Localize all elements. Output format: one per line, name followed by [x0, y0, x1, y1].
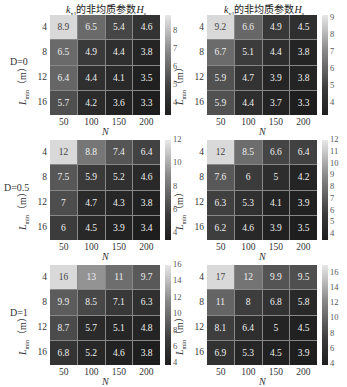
colorbar-tick: 10 — [173, 157, 182, 167]
colorbar-tick: 7 — [330, 193, 334, 203]
heatmap-cell: 5 — [263, 165, 290, 189]
y-tick: 12 — [31, 197, 47, 207]
heatmap-cell: 5.9 — [207, 91, 234, 115]
heatmap-cell: 5 — [263, 316, 290, 340]
x-axis-label: N — [102, 376, 109, 387]
x-tick: 50 — [52, 242, 76, 252]
colorbar-tick: 6 — [330, 63, 334, 73]
colorbar-tick: 7 — [173, 43, 177, 53]
y-tick: 4 — [188, 147, 204, 157]
x-tick: 150 — [264, 367, 288, 377]
colorbar-tick: 16 — [330, 267, 339, 277]
y-tick: 16 — [188, 222, 204, 232]
x-tick: 200 — [291, 367, 315, 377]
title-h: H — [294, 4, 301, 15]
heatmap-cell: 9.5 — [290, 265, 317, 289]
heatmap-cell: 6.9 — [207, 341, 234, 365]
heatmap-cell: 3.8 — [133, 191, 160, 215]
heatmap-cell: 4.4 — [263, 40, 290, 64]
y-tick: 16 — [31, 97, 47, 107]
heatmap-cell: 5.7 — [50, 91, 77, 115]
heatmap-cell: 4.7 — [235, 66, 262, 90]
colorbar-tick: 11 — [330, 146, 338, 156]
heatmap-cell: 9.7 — [133, 265, 160, 289]
heatmap-cell: 5.4 — [106, 15, 133, 39]
x-tick: 100 — [79, 242, 103, 252]
heatmap-cell: 3.8 — [290, 66, 317, 90]
heatmap-cell: 6.5 — [50, 40, 77, 64]
colorbar-tick: 12 — [173, 134, 182, 144]
heatmap-cell: 6.4 — [290, 140, 317, 164]
y-axis-label: Lmin（m） — [171, 187, 187, 230]
heatmap-cell: 5.8 — [290, 290, 317, 314]
y-tick: 8 — [31, 172, 47, 182]
colorbar-tick: 14 — [173, 275, 182, 285]
x-tick: 200 — [291, 117, 315, 127]
heatmap-cell: 3.4 — [133, 216, 160, 240]
colorbar-tick: 4 — [330, 228, 334, 238]
title-h: H — [136, 4, 143, 15]
x-tick: 50 — [209, 367, 233, 377]
heatmap-cell: 9.9 — [50, 290, 77, 314]
heatmap-cell: 7.4 — [106, 140, 133, 164]
heatmap-cell: 6.4 — [133, 140, 160, 164]
heatmap-cell: 3.9 — [290, 341, 317, 365]
colorbar-tick: 5 — [330, 216, 334, 226]
heatmap-cell: 5.2 — [78, 341, 105, 365]
colorbar-tick: 4 — [330, 358, 334, 368]
heatmap-cell: 4.4 — [106, 40, 133, 64]
heatmap-grid: 17129.99.51186.85.88.16.454.56.95.34.53.… — [207, 265, 317, 365]
x-tick: 50 — [52, 367, 76, 377]
x-tick: 50 — [209, 242, 233, 252]
x-tick: 150 — [107, 117, 131, 127]
x-tick: 200 — [134, 117, 158, 127]
colorbar-tick: 16 — [173, 259, 182, 269]
heatmap-cell: 8 — [235, 290, 262, 314]
y-tick: 4 — [188, 22, 204, 32]
heatmap-cell: 4.4 — [235, 91, 262, 115]
colorbar-tick: 8 — [330, 29, 334, 39]
y-tick: 12 — [188, 197, 204, 207]
y-tick: 8 — [188, 47, 204, 57]
heatmap-grid: 1613119.79.98.57.16.38.75.75.14.86.85.24… — [50, 265, 160, 365]
heatmap-cell: 12 — [235, 265, 262, 289]
heatmap-cell: 5.2 — [106, 165, 133, 189]
heatmap-cell: 4.6 — [133, 15, 160, 39]
heatmap-cell: 13 — [78, 265, 105, 289]
heatmap-cell: 4.4 — [78, 66, 105, 90]
heatmap-cell: 3.9 — [263, 66, 290, 90]
heatmap-cell: 9.9 — [263, 265, 290, 289]
colorbar-tick: 10 — [330, 312, 339, 322]
heatmap-cell: 3.7 — [263, 91, 290, 115]
colorbar-tick: 12 — [330, 134, 339, 144]
heatmap-cell: 5.1 — [235, 40, 262, 64]
x-axis-label: N — [259, 251, 266, 262]
heatmap-cell: 8.5 — [235, 140, 262, 164]
heatmap-cell: 6.3 — [207, 191, 234, 215]
heatmap-grid: 128.56.66.47.6654.26.35.34.13.96.24.63.9… — [207, 140, 317, 240]
y-axis-label: Lmin（m） — [14, 187, 30, 230]
heatmap-cell: 16 — [50, 265, 77, 289]
x-tick: 50 — [52, 117, 76, 127]
colorbar-tick: 8 — [330, 328, 334, 338]
y-tick: 12 — [188, 322, 204, 332]
y-tick: 12 — [31, 72, 47, 82]
colorbar-tick: 8 — [330, 181, 334, 191]
heatmap-cell: 7.5 — [50, 165, 77, 189]
heatmap-cell: 3.8 — [290, 40, 317, 64]
y-tick: 16 — [31, 347, 47, 357]
y-tick: 16 — [31, 222, 47, 232]
heatmap-cell: 11 — [106, 265, 133, 289]
heatmap-cell: 6.6 — [263, 140, 290, 164]
heatmap-cell: 4.8 — [133, 316, 160, 340]
heatmap-cell: 7 — [50, 191, 77, 215]
heatmap-cell: 5.7 — [78, 316, 105, 340]
heatmap-cell: 12 — [50, 140, 77, 164]
x-tick: 200 — [291, 242, 315, 252]
heatmap-cell: 5.9 — [207, 66, 234, 90]
colorbar-tick: 7 — [330, 46, 334, 56]
colorbar-tick: 8 — [173, 25, 177, 35]
colorbar-tick: 6 — [330, 343, 334, 353]
heatmap-cell: 3.9 — [106, 216, 133, 240]
y-tick: 8 — [31, 47, 47, 57]
